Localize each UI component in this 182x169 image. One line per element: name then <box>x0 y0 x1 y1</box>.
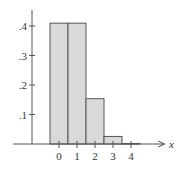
y-ticks-group: .1.2.3.4 <box>19 20 35 121</box>
y-tick-label: .2 <box>19 79 27 91</box>
bar-2 <box>86 99 104 144</box>
x-tick-label: 0 <box>56 150 62 162</box>
y-tick-label: .3 <box>19 50 28 62</box>
x-tick-label: 4 <box>128 150 134 162</box>
x-axis-label: x <box>168 138 174 150</box>
bars-group <box>50 23 140 144</box>
x-tick-label: 2 <box>92 150 98 162</box>
bar-1 <box>68 23 86 144</box>
y-tick-label: .1 <box>19 109 27 121</box>
y-tick-label: .4 <box>19 20 28 32</box>
x-tick-label: 3 <box>110 150 116 162</box>
probability-histogram: x .1.2.3.4 01234 <box>0 0 182 169</box>
bar-0 <box>50 23 68 144</box>
x-tick-label: 1 <box>74 150 80 162</box>
